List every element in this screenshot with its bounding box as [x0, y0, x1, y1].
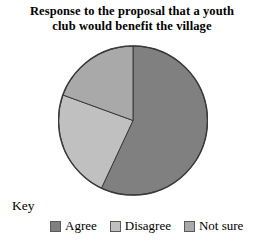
legend-item-agree[interactable]: Agree	[50, 218, 97, 234]
legend-swatch-agree	[50, 221, 61, 232]
page-title: Response to the proposal that a youth cl…	[0, 4, 264, 34]
legend: Key Agree Disagree Not sure	[0, 198, 264, 246]
legend-label-not-sure: Not sure	[199, 218, 243, 234]
legend-item-disagree[interactable]: Disagree	[110, 218, 171, 234]
legend-label-disagree: Disagree	[125, 218, 171, 234]
legend-swatch-not-sure	[184, 221, 195, 232]
legend-label-agree: Agree	[65, 218, 97, 234]
chart-page: Response to the proposal that a youth cl…	[0, 0, 264, 246]
title-line-2: club would benefit the village	[0, 19, 264, 34]
legend-item-not-sure[interactable]: Not sure	[184, 218, 243, 234]
legend-items: Agree Disagree Not sure	[50, 218, 243, 234]
pie-chart-svg	[58, 45, 208, 196]
legend-title: Key	[12, 198, 35, 214]
title-line-1: Response to the proposal that a youth	[0, 4, 264, 19]
legend-swatch-disagree	[110, 221, 121, 232]
pie-slices	[58, 46, 207, 195]
pie-chart	[58, 45, 208, 196]
